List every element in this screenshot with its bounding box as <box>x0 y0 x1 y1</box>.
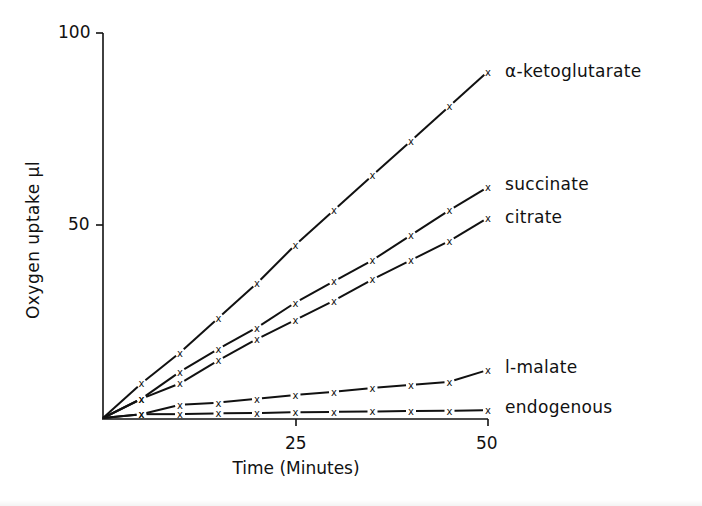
line-segment <box>222 287 253 315</box>
line-segment <box>185 403 214 405</box>
line-segment <box>300 303 330 318</box>
line-segment <box>415 213 445 233</box>
y-tick-label-50: 50 <box>68 214 90 234</box>
line-segment <box>338 179 369 207</box>
x-marker-icon: x <box>139 378 145 389</box>
x-marker-icon: x <box>216 355 222 366</box>
x-marker-icon: x <box>485 365 491 376</box>
x-marker-icon: x <box>177 367 183 378</box>
x-marker-icon: x <box>216 344 222 355</box>
line-segment <box>223 399 252 402</box>
x-marker-icon: x <box>485 67 491 78</box>
line-segment <box>415 109 446 137</box>
x-marker-icon: x <box>254 323 260 334</box>
line-segment <box>146 375 176 396</box>
line-segment <box>300 284 330 300</box>
line-segment <box>338 282 368 298</box>
x-marker-icon: x <box>408 136 414 147</box>
line-segment <box>377 262 407 277</box>
line-segment <box>453 75 484 103</box>
x-marker-icon: x <box>293 315 299 326</box>
series--ketoglutarate: xxxxxxxxxx <box>103 67 491 419</box>
x-marker-icon: x <box>254 278 260 289</box>
line-segment <box>299 213 330 241</box>
x-marker-icon: x <box>254 394 260 405</box>
x-marker-icon: x <box>216 398 222 409</box>
x-marker-icon: x <box>177 348 183 359</box>
series-label-alpha-ketoglutarate: α-ketoglutarate <box>505 61 642 81</box>
line-segment <box>261 248 292 279</box>
x-marker-icon: x <box>139 409 145 420</box>
x-marker-icon: x <box>447 377 453 388</box>
x-marker-icon: x <box>485 213 491 224</box>
x-marker-icon: x <box>331 205 337 216</box>
line-segment <box>262 395 291 398</box>
x-marker-icon: x <box>216 313 222 324</box>
series-label-l-malate: l-malate <box>505 357 578 377</box>
line-segment <box>415 243 445 258</box>
series-endogenous: xxxxxxxxxx <box>103 405 491 420</box>
x-marker-icon: x <box>447 101 453 112</box>
line-segment <box>454 220 484 238</box>
x-tick-label-25: 25 <box>285 433 307 453</box>
x-marker-icon: x <box>216 408 222 419</box>
line-segment <box>454 190 484 208</box>
x-marker-icon: x <box>408 406 414 417</box>
line-segment <box>262 412 291 413</box>
x-marker-icon: x <box>139 394 145 405</box>
x-marker-icon: x <box>408 230 414 241</box>
line-segment <box>184 321 215 349</box>
x-marker-icon: x <box>370 170 376 181</box>
x-marker-icon: x <box>293 390 299 401</box>
x-marker-icon: x <box>485 405 491 416</box>
x-marker-icon: x <box>331 407 337 418</box>
x-marker-icon: x <box>254 334 260 345</box>
series-layer: xxxxxxxxxxxxxxxxxxxxxxxxxxxxxxxxxxxxxxxx… <box>103 67 491 421</box>
line-segment <box>376 144 407 172</box>
x-marker-icon: x <box>370 406 376 417</box>
line-segment <box>339 388 368 391</box>
line-segment <box>146 406 175 413</box>
x-marker-icon: x <box>177 409 183 420</box>
x-marker-icon: x <box>293 407 299 418</box>
series-label-succinate: succinate <box>505 174 589 194</box>
x-marker-icon: x <box>447 406 453 417</box>
x-marker-icon: x <box>370 274 376 285</box>
x-marker-icon: x <box>447 236 453 247</box>
x-marker-icon: x <box>254 408 260 419</box>
line-segment <box>377 385 406 387</box>
x-marker-icon: x <box>331 387 337 398</box>
x-marker-icon: x <box>485 182 491 193</box>
x-marker-icon: x <box>331 296 337 307</box>
series-label-citrate: citrate <box>505 207 562 227</box>
x-marker-icon: x <box>370 255 376 266</box>
y-tick-label-100: 100 <box>58 22 90 42</box>
x-marker-icon: x <box>293 240 299 251</box>
line-segment <box>338 263 368 279</box>
x-marker-icon: x <box>370 383 376 394</box>
x-axis-label: Time (Minutes) <box>232 458 359 478</box>
line-segment <box>261 322 291 337</box>
line-segment <box>261 305 291 325</box>
line-segment <box>454 371 483 380</box>
x-marker-icon: x <box>293 298 299 309</box>
line-segment <box>146 385 175 397</box>
x-marker-icon: x <box>331 276 337 287</box>
x-marker-icon: x <box>447 205 453 216</box>
x-tick-label-50: 50 <box>476 433 498 453</box>
x-marker-icon: x <box>177 378 183 389</box>
y-axis-label: Oxygen uptake μl <box>23 161 43 319</box>
x-marker-icon: x <box>408 255 414 266</box>
x-marker-icon: x <box>408 380 414 391</box>
line-segment <box>377 238 407 258</box>
line-segment <box>416 382 445 384</box>
line-segment <box>300 392 329 394</box>
line-segment <box>185 413 214 414</box>
series-label-endogenous: endogenous <box>505 397 612 417</box>
axes <box>96 33 488 426</box>
cropped-caption-strip <box>0 500 702 506</box>
